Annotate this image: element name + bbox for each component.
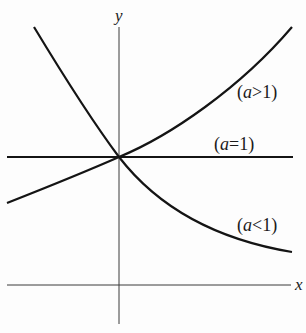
label-a-equal-1: (a=1) bbox=[214, 134, 254, 155]
x-axis-label: x bbox=[294, 275, 303, 294]
diagram-canvas: y x (a>1) (a=1) (a<1) bbox=[0, 0, 306, 333]
exponential-function-diagram: y x (a>1) (a=1) (a<1) bbox=[0, 0, 306, 333]
y-axis-label: y bbox=[113, 6, 123, 25]
label-a-greater-1: (a>1) bbox=[237, 82, 277, 103]
label-a-less-1: (a<1) bbox=[237, 215, 277, 236]
